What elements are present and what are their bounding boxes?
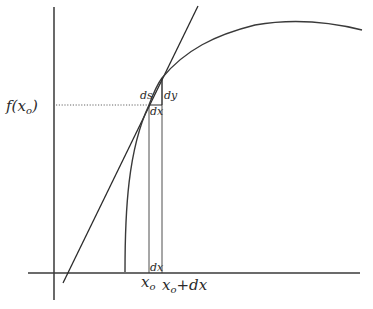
dx-top-label: dx [150, 105, 164, 118]
function-curve [125, 21, 362, 272]
ds-label: ds [140, 89, 153, 102]
dx-bottom-label: dx [150, 261, 164, 274]
x0-plus-dx-label: xo+dx [162, 276, 208, 295]
dy-label: dy [164, 89, 178, 102]
arc-length-diagram: f(xo) ds dy dx dx xo xo+dx [0, 0, 373, 309]
tangent-line [63, 6, 198, 283]
x0-label: xo [141, 273, 156, 292]
f-x0-label: f(xo) [5, 97, 38, 116]
